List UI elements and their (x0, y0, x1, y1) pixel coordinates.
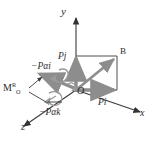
axis-label-z: z (21, 122, 25, 132)
axis-label-y: y (61, 6, 66, 17)
moment-superscript-r: R (12, 81, 16, 88)
leader-to-pak (29, 92, 46, 102)
diagram-canvas (0, 0, 155, 141)
origin-label: O (77, 86, 84, 96)
x-axis-line (76, 90, 140, 112)
axis-label-x: x (140, 108, 144, 118)
moment-subscript-o: O (16, 88, 20, 95)
moment-resultant-label: MRO (3, 82, 21, 96)
vector-label-pj: Pj (58, 52, 66, 62)
pak-stub-line (46, 96, 56, 102)
leader-to-pai (29, 77, 42, 88)
moment-label-minus-pai: −Pαi (31, 62, 51, 72)
pak-stub (46, 96, 56, 102)
moment-label-minus-pak: −Pαk (39, 108, 60, 118)
moment-m-glyph: M (3, 82, 12, 93)
vector-diagram-figure: y x z O B Pj Pi −Pαi −Pαk MRO (0, 0, 155, 141)
vector-label-pi: Pi (98, 98, 106, 108)
point-label-b: B (120, 47, 126, 56)
